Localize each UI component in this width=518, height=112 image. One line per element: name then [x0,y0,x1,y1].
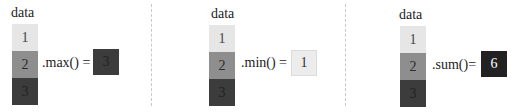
data-cell-3: 3 [400,80,426,107]
data-cell-3: 3 [12,78,38,105]
data-cell-2: 2 [209,52,235,79]
max-result-box: 3 [93,49,119,75]
max-panel: data 1 2 3 .max() = 3 [0,0,160,112]
data-cell-1: 1 [400,26,426,53]
sum-operation-label: .sum()= [432,57,476,73]
data-cell-1: 1 [209,25,235,52]
min-result-box: 1 [291,50,317,76]
sum-result-box: 6 [481,51,507,77]
data-cell-2: 2 [12,51,38,78]
data-label: data [399,7,422,23]
data-cell-3: 3 [209,79,235,106]
dashed-divider-1 [151,4,152,106]
data-label: data [211,6,234,22]
sum-panel: data 1 2 3 .sum()= 6 [345,0,518,112]
data-label: data [11,5,34,21]
max-operation-label: .max() = [42,55,90,71]
data-cell-2: 2 [400,53,426,80]
min-panel: data 1 2 3 .min() = 1 [175,0,345,112]
data-cell-1: 1 [12,24,38,51]
min-operation-label: .min() = [241,55,287,71]
